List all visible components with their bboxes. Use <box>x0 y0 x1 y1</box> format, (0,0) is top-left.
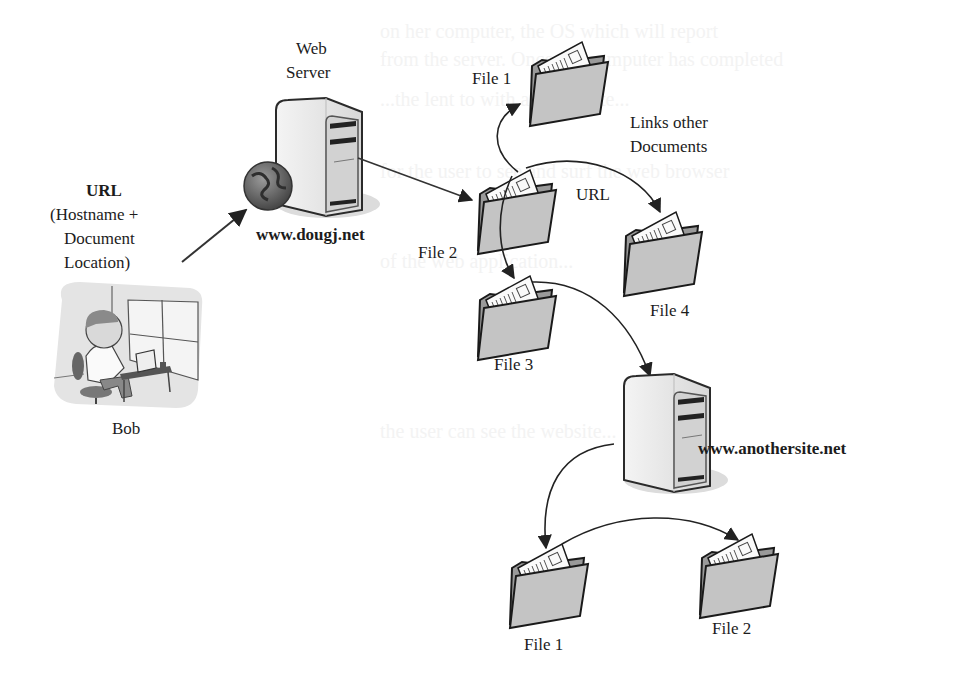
link-file2-to-file1 <box>497 104 520 172</box>
file3-label: File 3 <box>494 354 533 376</box>
url-link-label: URL <box>576 184 610 206</box>
user-label-bob: Bob <box>112 418 140 440</box>
folder-icon-file4 <box>624 212 702 296</box>
url-request-title: URL <box>86 180 122 202</box>
link-anothersite-to-file1 <box>545 444 614 548</box>
diagram-canvas <box>0 0 956 684</box>
file1-bottom-label: File 1 <box>524 634 563 656</box>
file2-label: File 2 <box>418 242 457 264</box>
url-request-line3: Document <box>64 228 135 250</box>
web-server-hostname: www.dougj.net <box>256 224 365 246</box>
anothersite-hostname: www.anothersite.net <box>698 438 846 460</box>
url-request-line2: (Hostname + <box>50 204 138 226</box>
url-request-arrow <box>182 210 246 262</box>
globe-icon <box>244 162 292 210</box>
file1-top-label: File 1 <box>472 68 511 90</box>
folder-icon-file1-top <box>530 42 608 126</box>
folder-icon-file2 <box>478 170 556 254</box>
web-server-icon <box>276 98 380 218</box>
anothersite-server-icon <box>624 374 728 494</box>
server-to-file2-arrow <box>358 158 472 200</box>
link-file1-to-file2-bottom <box>562 518 738 544</box>
file4-label: File 4 <box>650 300 689 322</box>
links-other-documents-line2: Documents <box>630 136 707 158</box>
folder-icon-file1-bottom <box>510 544 588 628</box>
url-request-line4: Location) <box>64 252 130 274</box>
web-server-label-line2: Server <box>286 62 330 84</box>
user-bob-illustration <box>54 282 202 408</box>
web-server-label-line1: Web <box>296 38 327 60</box>
folder-icon-file2-bottom <box>700 534 778 618</box>
folder-icon-file3 <box>478 276 556 360</box>
file2-bottom-label: File 2 <box>712 618 751 640</box>
links-other-documents-line1: Links other <box>630 112 708 134</box>
